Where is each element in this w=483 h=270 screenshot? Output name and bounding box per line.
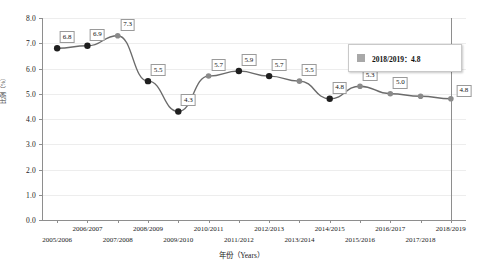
data-point-label: 5.0 (393, 77, 408, 89)
data-point-label: 5.5 (151, 64, 166, 76)
x-tick-mark (269, 220, 270, 223)
x-tick-mark (330, 220, 331, 223)
x-tick-mark (118, 220, 119, 223)
gridline (42, 144, 466, 145)
data-point-label: 5.9 (241, 54, 256, 66)
line-chart: 0.01.02.03.04.05.06.07.08.0 比例（%） 2005/2… (0, 0, 483, 270)
y-tick-mark (39, 43, 42, 44)
y-tick-mark (39, 170, 42, 171)
y-tick-label: 0.0 (4, 216, 36, 225)
y-tick-mark (39, 195, 42, 196)
x-tick-label: 2005/2006 (42, 236, 72, 244)
data-point-label: 5.5 (302, 64, 317, 76)
x-axis-title: 年份（Years） (0, 249, 483, 260)
gridline (42, 119, 466, 120)
x-tick-label: 2009/2010 (163, 236, 193, 244)
x-tick-mark (57, 220, 58, 223)
data-point-marker (145, 78, 151, 84)
x-tick-label: 2013/2014 (284, 236, 314, 244)
y-axis-title: 比例（%） (0, 75, 7, 104)
data-point-marker (327, 96, 333, 102)
x-tick-mark (299, 220, 300, 223)
gridline (42, 170, 466, 171)
x-tick-mark (178, 220, 179, 223)
x-tick-label: 2016/2017 (375, 225, 405, 233)
x-tick-label: 2010/2011 (194, 225, 224, 233)
data-point-label: 5.7 (272, 59, 287, 71)
y-tick-label: 8.0 (4, 14, 36, 23)
data-point-marker (175, 108, 181, 114)
x-tick-label: 2006/2007 (72, 225, 102, 233)
gridline (42, 195, 466, 196)
x-tick-mark (239, 220, 240, 223)
data-point-marker (297, 78, 303, 84)
data-point-label: 4.8 (332, 82, 347, 94)
x-tick-label: 2015/2016 (345, 236, 375, 244)
x-tick-label: 2012/2013 (254, 225, 284, 233)
x-tick-mark (87, 220, 88, 223)
x-tick-mark (390, 220, 391, 223)
y-tick-mark (39, 119, 42, 120)
y-tick-label: 3.0 (4, 140, 36, 149)
y-tick-label: 4.0 (4, 115, 36, 124)
x-tick-mark (209, 220, 210, 223)
data-point-label: 6.9 (90, 29, 105, 41)
y-tick-mark (39, 94, 42, 95)
y-axis-line (42, 18, 43, 220)
x-tick-label: 2014/2015 (315, 225, 345, 233)
gridline (42, 18, 466, 19)
x-tick-mark (421, 220, 422, 223)
x-tick-mark (451, 220, 452, 223)
x-tick-label: 2018/2019 (436, 225, 466, 233)
y-tick-mark (39, 220, 42, 221)
data-point-marker (357, 83, 363, 89)
y-tick-label: 1.0 (4, 190, 36, 199)
data-point-label: 7.3 (120, 19, 135, 31)
data-point-label: 4.8 (456, 85, 471, 97)
data-point-marker (206, 73, 212, 79)
x-tick-label: 2011/2012 (224, 236, 254, 244)
x-tick-mark (148, 220, 149, 223)
data-point-marker (266, 73, 272, 79)
data-point-label: 5.7 (211, 59, 226, 71)
y-tick-label: 5.0 (4, 89, 36, 98)
data-point-marker (54, 45, 60, 51)
gridline (42, 94, 466, 95)
y-tick-mark (39, 69, 42, 70)
legend-label: 2018/2019：4.8 (372, 53, 420, 64)
x-tick-label: 2017/2018 (406, 236, 436, 244)
x-axis-line (42, 220, 466, 221)
x-tick-mark (360, 220, 361, 223)
x-tick-label: 2007/2008 (103, 236, 133, 244)
chart-legend: 2018/2019：4.8 (348, 44, 462, 72)
data-point-marker (115, 33, 121, 39)
y-tick-label: 7.0 (4, 39, 36, 48)
legend-swatch-icon (357, 54, 365, 62)
x-tick-label: 2008/2009 (133, 225, 163, 233)
y-tick-label: 2.0 (4, 165, 36, 174)
y-tick-mark (39, 144, 42, 145)
data-point-label: 4.3 (181, 94, 196, 106)
y-tick-label: 6.0 (4, 64, 36, 73)
y-tick-mark (39, 18, 42, 19)
data-point-label: 6.8 (60, 31, 75, 43)
